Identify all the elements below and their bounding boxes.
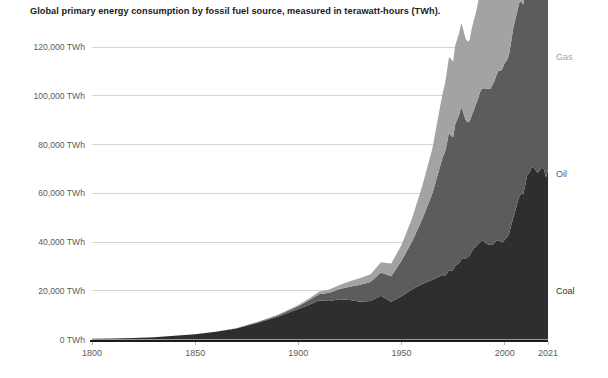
stacked-area-plot xyxy=(0,0,608,378)
x-tick-label: 2021 xyxy=(538,348,558,358)
x-tick-label: 2000 xyxy=(495,348,515,358)
y-tick-label: 0 TWh xyxy=(60,335,85,345)
y-tick-label: 120,000 TWh xyxy=(34,42,85,52)
y-tick-label: 100,000 TWh xyxy=(34,91,85,101)
x-tick-label: 1800 xyxy=(82,348,102,358)
chart-figure: Global primary energy consumption by fos… xyxy=(0,0,608,378)
area-series-group xyxy=(92,0,548,340)
y-tick-label: 20,000 TWh xyxy=(38,286,85,296)
x-tick-label: 1850 xyxy=(185,348,205,358)
y-tick-label: 40,000 TWh xyxy=(38,237,85,247)
y-tick-label: 80,000 TWh xyxy=(38,140,85,150)
x-tick-label: 1900 xyxy=(288,348,308,358)
series-label-gas: Gas xyxy=(556,52,573,62)
series-label-oil: Oil xyxy=(556,169,567,179)
y-tick-label: 60,000 TWh xyxy=(38,188,85,198)
x-axis-tick-marks xyxy=(92,342,548,345)
series-label-coal: Coal xyxy=(556,286,575,296)
x-tick-label: 1950 xyxy=(391,348,411,358)
